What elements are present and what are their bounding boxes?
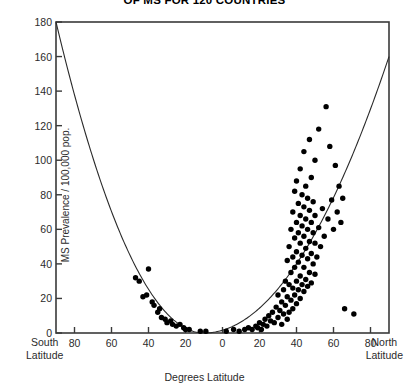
data-point: [327, 144, 332, 149]
data-point: [299, 253, 304, 258]
data-point: [198, 329, 203, 334]
data-point: [231, 327, 236, 332]
data-point: [320, 206, 325, 211]
data-point: [294, 301, 299, 306]
x-axis-south-edge-label: South Latitude: [26, 336, 63, 362]
data-point: [331, 227, 336, 232]
data-point: [309, 175, 314, 180]
data-point: [286, 244, 291, 249]
data-point: [299, 282, 304, 287]
data-point: [325, 216, 330, 221]
y-tick-label: 120: [34, 120, 52, 132]
data-point: [290, 254, 295, 259]
data-point: [309, 280, 314, 285]
data-point: [283, 303, 288, 308]
data-point: [333, 163, 338, 168]
data-point: [309, 251, 314, 256]
x-tick-label: 60: [328, 337, 340, 349]
data-point: [294, 249, 299, 254]
data-point: [146, 266, 151, 271]
y-tick-label: 80: [40, 189, 52, 201]
data-point: [290, 285, 295, 290]
data-point: [342, 306, 347, 311]
data-point: [292, 292, 297, 297]
south-word: South: [26, 336, 63, 349]
data-point: [298, 166, 303, 171]
data-point: [351, 311, 356, 316]
plot-frame: [56, 22, 389, 333]
data-point: [290, 306, 295, 311]
data-point: [310, 230, 315, 235]
data-point: [290, 209, 295, 214]
data-point: [281, 287, 286, 292]
data-point: [224, 329, 229, 334]
data-point: [307, 270, 312, 275]
data-point: [309, 220, 314, 225]
data-point: [335, 209, 340, 214]
data-point: [338, 220, 343, 225]
data-point: [236, 329, 241, 334]
data-point: [312, 158, 317, 163]
data-point: [285, 316, 290, 321]
x-axis-tick-labels: 80604020020406080: [56, 337, 389, 353]
data-point: [296, 201, 301, 206]
y-axis-ticks: [56, 22, 62, 333]
data-point: [288, 270, 293, 275]
data-point: [292, 265, 297, 270]
data-point: [303, 246, 308, 251]
fitted-trend-curve: [56, 22, 389, 333]
data-point: [203, 329, 208, 334]
data-point: [294, 220, 299, 225]
y-tick-label: 160: [34, 51, 52, 63]
ms-prevalence-latitude-chart: OF MS FOR 120 COUNTRIES MS Prevalence / …: [0, 0, 409, 390]
plot-area: [56, 22, 389, 333]
data-point: [292, 189, 297, 194]
x-tick-label: 80: [69, 337, 81, 349]
y-tick-label: 40: [40, 258, 52, 270]
data-point: [294, 278, 299, 283]
data-point: [264, 323, 269, 328]
data-point: [281, 311, 286, 316]
data-point: [298, 240, 303, 245]
data-point: [329, 197, 334, 202]
data-point: [336, 183, 341, 188]
data-point: [296, 230, 301, 235]
data-point: [316, 225, 321, 230]
data-point: [310, 261, 315, 266]
data-point: [288, 297, 293, 302]
data-point: [303, 183, 308, 188]
data-point: [137, 278, 142, 283]
data-point: [275, 292, 280, 297]
data-point: [301, 149, 306, 154]
x-tick-label: 0: [220, 337, 226, 349]
data-point: [272, 320, 277, 325]
data-point: [299, 223, 304, 228]
data-point: [301, 234, 306, 239]
data-point: [279, 322, 284, 327]
chart-title: OF MS FOR 120 COUNTRIES: [0, 0, 409, 6]
x-tick-label: 40: [143, 337, 155, 349]
data-point: [318, 244, 323, 249]
x-axis-title: Degrees Latitude: [0, 371, 409, 383]
data-point: [314, 254, 319, 259]
data-point: [340, 196, 345, 201]
data-point: [301, 204, 306, 209]
data-point: [307, 208, 312, 213]
data-point: [296, 287, 301, 292]
data-point: [301, 289, 306, 294]
y-tick-label: 20: [40, 292, 52, 304]
data-point: [323, 104, 328, 109]
data-point: [298, 273, 303, 278]
data-point: [305, 256, 310, 261]
data-point: [288, 227, 293, 232]
data-point: [294, 178, 299, 183]
data-point: [307, 137, 312, 142]
y-tick-label: 140: [34, 85, 52, 97]
data-point: [270, 310, 275, 315]
data-point: [307, 239, 312, 244]
data-point: [292, 235, 297, 240]
data-point: [312, 213, 317, 218]
data-point: [322, 234, 327, 239]
data-point: [303, 216, 308, 221]
data-point: [310, 199, 315, 204]
